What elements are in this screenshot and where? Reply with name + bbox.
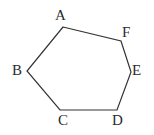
vertex-label-a: A <box>55 8 66 23</box>
hexagon-diagram <box>0 0 154 135</box>
vertex-label-d: D <box>112 113 123 128</box>
figure-canvas: A F E D C B <box>0 0 154 135</box>
vertex-label-f: F <box>122 25 130 40</box>
vertex-label-e: E <box>132 63 141 78</box>
vertex-label-b: B <box>12 63 22 78</box>
hexagon-outline <box>27 27 131 110</box>
vertex-label-c: C <box>58 113 68 128</box>
